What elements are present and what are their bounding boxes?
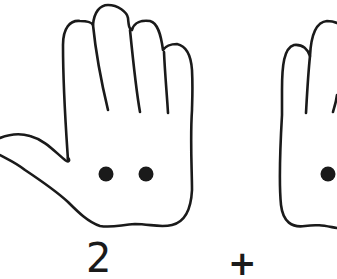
right-finger-line-1 — [306, 56, 310, 113]
left-hand-dot-2 — [139, 167, 154, 182]
left-hand-dot-1 — [99, 167, 114, 182]
left-finger-line-3 — [164, 52, 168, 113]
right-finger-line-2 — [333, 95, 337, 112]
plus-operator: + — [228, 246, 257, 279]
left-finger-line-2 — [130, 30, 140, 112]
left-finger-line-1 — [93, 25, 108, 110]
left-hand-outline — [0, 5, 192, 227]
hands-drawing — [0, 0, 337, 279]
left-hand-number: 2 — [86, 238, 111, 278]
hands-addition-figure: 2 + — [0, 0, 337, 279]
right-hand-dot-1 — [321, 167, 336, 182]
right-hand-outline — [280, 21, 337, 228]
left-thumb-outline — [0, 134, 69, 161]
